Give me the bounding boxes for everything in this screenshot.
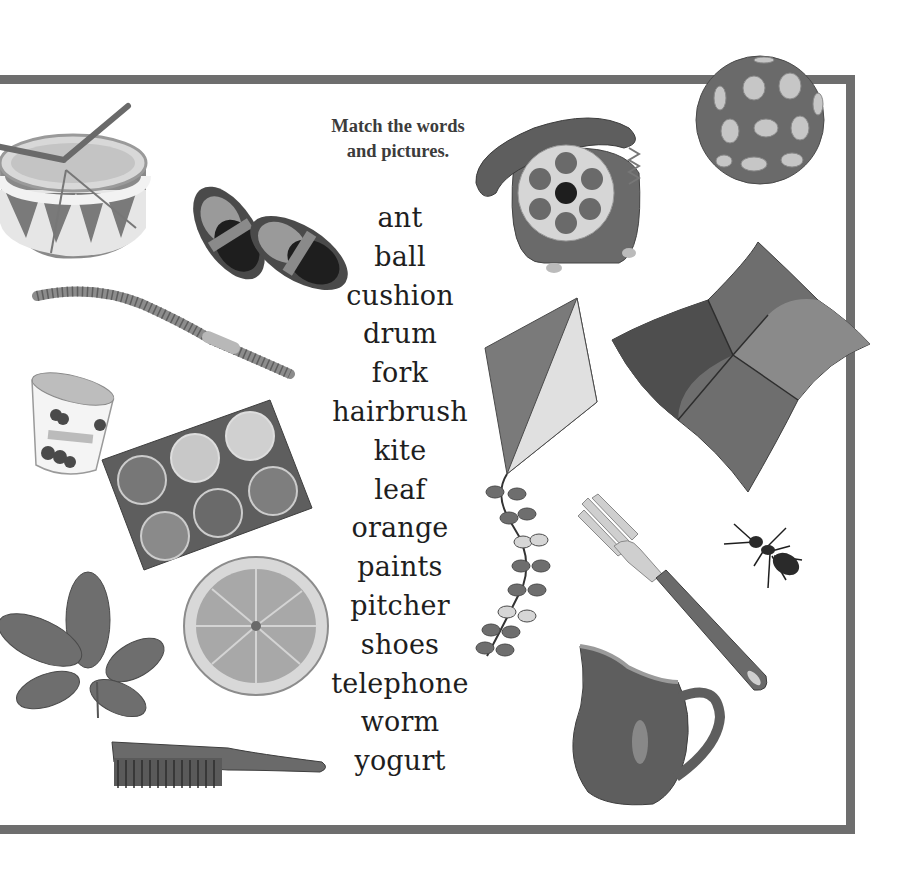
picture-shoes[interactable] [184, 178, 354, 293]
worm-icon [32, 282, 297, 382]
picture-paints[interactable] [100, 398, 315, 573]
picture-ball[interactable] [694, 56, 829, 186]
word-item[interactable]: paints [318, 548, 482, 587]
word-item[interactable]: worm [318, 703, 482, 742]
drum-icon [0, 98, 156, 268]
ball-icon [694, 56, 829, 186]
orange-icon [182, 556, 332, 698]
picture-ant[interactable] [724, 520, 814, 595]
word-item[interactable]: drum [318, 315, 482, 354]
hairbrush-icon [108, 740, 330, 795]
word-item[interactable]: hairbrush [318, 393, 482, 432]
picture-worm[interactable] [32, 282, 297, 382]
leaf-icon [0, 570, 165, 720]
word-item[interactable]: orange [318, 509, 482, 548]
picture-leaf[interactable] [0, 570, 165, 720]
instruction-line-1: Match the words [300, 114, 496, 139]
paints-icon [100, 398, 315, 573]
picture-orange[interactable] [182, 556, 332, 698]
word-item[interactable]: telephone [318, 665, 482, 704]
cushion-icon [608, 240, 873, 500]
picture-pitcher[interactable] [568, 642, 728, 810]
shoes-icon [184, 178, 354, 293]
word-item[interactable]: pitcher [318, 587, 482, 626]
word-item[interactable]: kite [318, 432, 482, 471]
picture-cushion[interactable] [608, 240, 873, 500]
word-item[interactable]: leaf [318, 471, 482, 510]
word-item[interactable]: yogurt [318, 742, 482, 781]
pitcher-icon [568, 642, 728, 810]
word-item[interactable]: shoes [318, 626, 482, 665]
picture-drum[interactable] [0, 98, 156, 268]
ant-icon [724, 520, 814, 595]
instruction-line-2: and pictures. [300, 139, 496, 164]
instruction-text: Match the words and pictures. [300, 114, 496, 164]
word-item[interactable]: fork [318, 354, 482, 393]
picture-hairbrush[interactable] [108, 740, 330, 795]
